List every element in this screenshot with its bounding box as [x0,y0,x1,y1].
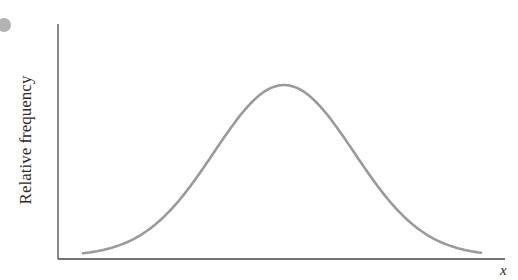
bullet-dot-icon [0,18,11,32]
bell-curve [83,85,481,253]
y-axis-label: Relative frequency [16,40,36,240]
normal-curve-diagram [0,0,518,280]
x-axis-label: x [500,262,507,279]
